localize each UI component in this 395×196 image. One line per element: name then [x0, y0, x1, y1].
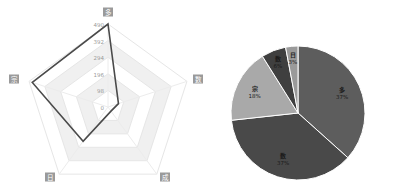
svg-text:37%: 37% — [277, 160, 289, 166]
radar-chart-canvas: 098196294392490多数成日宗 — [0, 0, 220, 196]
radar-tick-label: 98 — [97, 88, 104, 94]
svg-text:数: 数 — [195, 75, 202, 84]
radar-indicator-label: 多 — [103, 8, 113, 17]
svg-text:3%: 3% — [289, 59, 298, 65]
svg-text:多: 多 — [339, 86, 345, 94]
svg-text:数: 数 — [275, 55, 282, 63]
svg-text:37%: 37% — [336, 94, 348, 100]
radar-tick-label: 0 — [101, 105, 105, 111]
svg-text:数: 数 — [280, 152, 287, 160]
svg-text:宗: 宗 — [252, 85, 258, 93]
svg-text:日: 日 — [290, 51, 296, 59]
pie-chart: 多37%数37%宗18%数6%日3% — [220, 0, 395, 196]
svg-text:18%: 18% — [248, 93, 260, 99]
radar-indicator-label: 成 — [160, 173, 170, 182]
radar-indicator-label: 宗 — [9, 75, 19, 84]
radar-indicator-label: 数 — [193, 75, 203, 84]
svg-text:6%: 6% — [274, 63, 283, 69]
svg-text:多: 多 — [105, 8, 112, 17]
pie-chart-canvas: 多37%数37%宗18%数6%日3% — [220, 0, 395, 196]
svg-text:日: 日 — [47, 174, 54, 182]
svg-text:成: 成 — [162, 173, 169, 182]
radar-tick-label: 392 — [94, 39, 105, 45]
svg-text:宗: 宗 — [11, 75, 18, 84]
radar-chart: 098196294392490多数成日宗 — [0, 0, 220, 196]
radar-indicator-label: 日 — [45, 173, 55, 182]
radar-tick-label: 196 — [94, 72, 105, 78]
radar-tick-label: 294 — [94, 55, 105, 61]
